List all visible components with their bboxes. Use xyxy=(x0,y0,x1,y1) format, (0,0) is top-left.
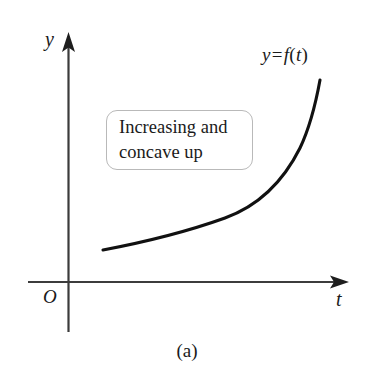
annotation-line-1: Increasing and xyxy=(119,115,252,140)
figure-caption: (a) xyxy=(0,340,374,362)
equation-equals-sign: = xyxy=(271,44,284,65)
equation-close-paren: ) xyxy=(302,44,309,65)
function-equation-label: y=f(t) xyxy=(262,44,308,66)
figure-container: y t O y=f(t) Increasing and concave up (… xyxy=(0,0,374,371)
equation-variable-y: y xyxy=(262,44,271,65)
origin-label: O xyxy=(43,287,57,306)
figure-graphics xyxy=(0,0,374,371)
annotation-line-2: concave up xyxy=(119,140,252,165)
equation-open-paren: ( xyxy=(289,44,296,65)
x-axis-label: t xyxy=(336,289,342,309)
y-axis-label: y xyxy=(45,29,54,49)
annotation-callout-box: Increasing and concave up xyxy=(106,110,253,170)
